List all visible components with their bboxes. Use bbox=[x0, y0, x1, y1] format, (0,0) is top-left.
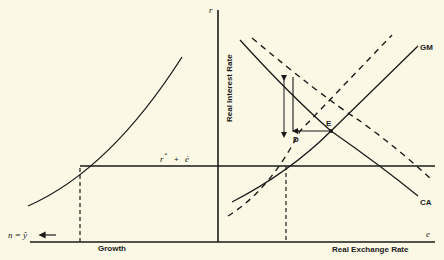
growth-symbol: n = ŷ bbox=[8, 230, 27, 240]
growth-curve bbox=[28, 57, 182, 206]
svg-text:*: * bbox=[164, 152, 167, 158]
world-rate-label: r * + ė bbox=[160, 152, 189, 164]
svg-text:ė: ė bbox=[185, 154, 189, 164]
point-d-label: D bbox=[293, 135, 299, 144]
diagram-canvas: r Real Interest Rate e Real Exchange Rat… bbox=[0, 0, 444, 260]
vertical-axis-label: Real Interest Rate bbox=[225, 54, 234, 122]
growth-label: Growth bbox=[98, 244, 126, 253]
ca-label: CA bbox=[420, 198, 432, 207]
gm-label: GM bbox=[420, 43, 433, 52]
svg-text:+: + bbox=[174, 155, 179, 164]
vertical-axis-symbol: r bbox=[209, 5, 213, 15]
horizontal-axis-symbol: e bbox=[426, 229, 430, 239]
gm-curve bbox=[232, 46, 418, 202]
point-e-marker bbox=[329, 129, 333, 133]
ca-curve bbox=[240, 40, 418, 196]
horizontal-axis-label: Real Exchange Rate bbox=[332, 245, 409, 254]
diagram: r Real Interest Rate e Real Exchange Rat… bbox=[0, 0, 444, 260]
point-e-label: E bbox=[326, 119, 332, 128]
gm-shifted-curve bbox=[228, 35, 392, 216]
